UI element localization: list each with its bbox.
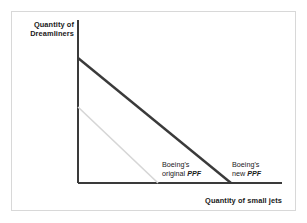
label-boeings-new-ppf: Boeing's new PPF xyxy=(232,160,261,178)
y-axis-title: Quantity of Dreamliners xyxy=(0,20,74,38)
label-new-ppf-line-1: Boeing's xyxy=(232,160,261,169)
label-boeings-original-ppf: Boeing's original PPF xyxy=(162,160,201,178)
label-new-ppf-acronym: PPF xyxy=(247,169,261,178)
label-new-ppf-prefix: new xyxy=(232,169,247,178)
label-new-ppf-line-2: new PPF xyxy=(232,169,261,178)
label-original-ppf-line-1: Boeing's xyxy=(162,160,201,169)
label-original-ppf-acronym: PPF xyxy=(187,169,201,178)
curve-boeings-new-ppf xyxy=(78,58,231,183)
x-axis-title: Quantity of small jets xyxy=(0,196,282,205)
curve-boeings-original-ppf xyxy=(78,107,158,183)
y-axis-title-line-1: Quantity of xyxy=(0,20,74,29)
ppf-figure: Quantity of Dreamliners Quantity of smal… xyxy=(0,0,307,223)
y-axis-title-line-2: Dreamliners xyxy=(0,29,74,38)
label-original-ppf-line-2: original PPF xyxy=(162,169,201,178)
label-original-ppf-prefix: original xyxy=(162,169,187,178)
